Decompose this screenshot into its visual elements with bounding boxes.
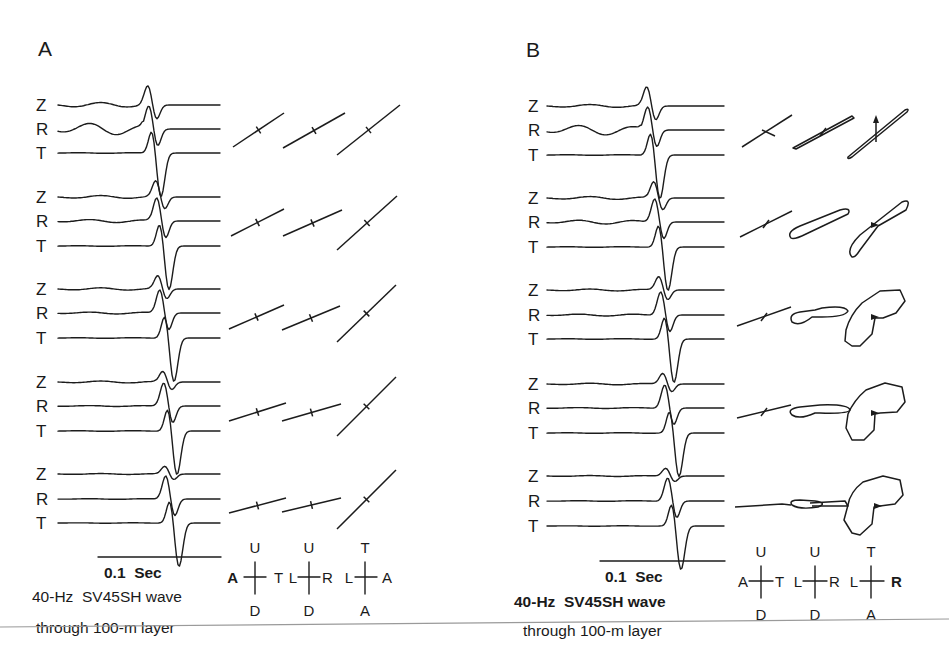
component-label-z: Z: [36, 96, 46, 115]
component-label-z: Z: [36, 373, 46, 392]
trace-group-row-5: ZRT: [36, 465, 220, 566]
axis-left-label: L: [794, 573, 802, 590]
component-label-t: T: [36, 514, 46, 533]
axis-up-label: U: [810, 543, 821, 560]
seismogram-trace-z: [58, 181, 220, 209]
panel-b-particle-motions: [735, 109, 908, 535]
component-label-z: Z: [528, 189, 538, 208]
component-label-r: R: [36, 120, 48, 139]
seismogram-trace-z: [58, 86, 220, 119]
seismogram-trace-t: [58, 410, 220, 474]
component-label-z: Z: [528, 97, 538, 116]
axis-down-label: A: [866, 606, 876, 623]
particle-motion-path: [848, 109, 908, 158]
seismogram-trace-r: [58, 383, 220, 422]
component-label-r: R: [36, 490, 48, 509]
component-label-t: T: [528, 238, 538, 257]
component-label-r: R: [36, 397, 48, 416]
particle-motion-path: [791, 307, 848, 324]
seismogram-trace-t: [58, 317, 220, 381]
panel-label-a: A: [38, 37, 52, 60]
panel-a-traces: ZRTZRTZRTZRTZRT: [36, 86, 220, 566]
component-label-t: T: [528, 424, 538, 443]
panel-b-traces: ZRTZRTZRTZRTZRT: [528, 87, 724, 569]
component-label-z: Z: [36, 280, 46, 299]
panel-a: A ZRTZRTZRTZRTZRT 0.1 Sec 40-Hz SV45SH w…: [32, 37, 400, 636]
axis-down-label: A: [360, 602, 370, 619]
trace-group-row-3: ZRT: [36, 276, 220, 381]
particle-motion-path: [735, 504, 791, 507]
seismogram-trace-z: [547, 277, 724, 300]
motion-direction-arrow-icon: [873, 115, 879, 123]
panel-a-particle-motions: [229, 105, 400, 529]
seismogram-trace-r: [547, 107, 724, 146]
particle-motion-tick: [763, 220, 769, 228]
component-label-r: R: [36, 212, 48, 231]
component-label-r: R: [528, 213, 540, 232]
component-label-r: R: [36, 304, 48, 323]
axis-up-label: T: [866, 543, 875, 560]
component-label-r: R: [528, 306, 540, 325]
caption-line1-a: 40-Hz SV45SH wave: [32, 588, 182, 605]
seismogram-figure: A ZRTZRTZRTZRTZRT 0.1 Sec 40-Hz SV45SH w…: [0, 0, 949, 664]
seismogram-trace-z: [547, 373, 724, 391]
seismogram-trace-z: [58, 466, 220, 479]
trace-group-row-4: ZRT: [36, 372, 220, 475]
axis-up-label: U: [756, 543, 767, 560]
axis-cross-a-3: T A L A: [345, 539, 392, 619]
component-label-r: R: [528, 121, 540, 140]
component-label-r: R: [528, 492, 540, 511]
axis-right-label: A: [382, 569, 392, 586]
component-label-t: T: [528, 330, 538, 349]
axis-left-label: L: [289, 569, 297, 586]
axis-right-label: T: [775, 573, 784, 590]
trace-group-row-3: ZRT: [528, 277, 724, 382]
axis-cross-a-2: U D L R: [289, 539, 333, 619]
component-label-z: Z: [36, 465, 46, 484]
particle-motion-tick: [311, 501, 313, 509]
seismogram-trace-r: [58, 476, 220, 516]
axis-left-label: A: [738, 573, 748, 590]
caption-line1-b: 40-Hz SV45SH wave: [514, 593, 666, 610]
seismogram-trace-r: [58, 198, 220, 238]
axis-right-label: R: [322, 569, 333, 586]
component-label-t: T: [36, 237, 46, 256]
axis-cross-a-1: U D A T: [227, 539, 283, 619]
seismogram-trace-r: [547, 478, 724, 517]
axis-right-label: R: [829, 573, 840, 590]
seismogram-trace-t: [58, 132, 220, 196]
particle-motion-path: [791, 500, 822, 508]
component-label-t: T: [528, 517, 538, 536]
axes-legend-b: U D A T U D L R T A L R: [738, 543, 902, 623]
axis-cross-b-1: U D A T: [738, 543, 784, 623]
particle-motion-path: [846, 383, 905, 440]
seismogram-trace-t: [547, 413, 724, 477]
particle-motion-tick: [310, 409, 312, 417]
seismogram-trace-t: [547, 318, 724, 382]
motion-direction-arrow-icon: [874, 503, 882, 509]
seismogram-trace-z: [547, 87, 724, 119]
seismogram-trace-z: [58, 372, 220, 390]
trace-group-row-1: ZRT: [36, 86, 220, 196]
seismogram-trace-t: [547, 226, 724, 290]
particle-motion-path: [742, 115, 792, 147]
particle-motion-tick: [256, 502, 258, 510]
axis-cross-b-3: T A L R: [850, 543, 902, 623]
seismogram-trace-z: [547, 182, 724, 210]
component-label-r: R: [528, 399, 540, 418]
axes-legend-a: U D A T U D L R T A L A: [227, 539, 392, 619]
axis-left-label: A: [227, 569, 238, 586]
axis-down-label: D: [250, 602, 261, 619]
trace-group-row-4: ZRT: [528, 373, 724, 476]
seismogram-trace-z: [58, 276, 220, 299]
component-label-z: Z: [36, 188, 46, 207]
axis-left-label: L: [850, 573, 858, 590]
seismogram-trace-t: [547, 134, 724, 198]
axis-right-label: R: [891, 573, 902, 590]
axis-up-label: U: [304, 539, 315, 556]
particle-motion-path: [850, 201, 908, 257]
seismogram-trace-t: [547, 505, 724, 569]
time-scale-label-a: 0.1 Sec: [104, 564, 162, 581]
seismogram-trace-t: [58, 226, 220, 290]
seismogram-trace-r: [58, 106, 220, 145]
